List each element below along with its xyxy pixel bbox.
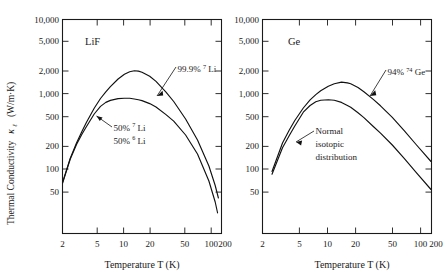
x-tick-label: 2 — [260, 239, 265, 249]
y-axis-title-units: (W/m·K) — [6, 82, 17, 117]
x-ticks-top-ge — [299, 20, 420, 26]
x-tick-label: 5 — [297, 239, 302, 249]
annotation-superscript: 74 — [406, 66, 412, 73]
annotation-label: 50% — [114, 123, 133, 133]
y-axis-title-symbol: κ — [6, 129, 16, 134]
y-tick-label: 5,000 — [239, 36, 260, 46]
x-axis-title-lif: Temperature T (K) — [104, 259, 179, 271]
annotation-label-tail: Li — [138, 123, 146, 133]
x-tick-label: 200 — [429, 239, 443, 249]
svg-text:50% 6 Li: 50% 6 Li — [114, 132, 147, 145]
thermal-conductivity-figure: Thermal Conductivity κ ℓ (W/m·K) — [0, 0, 447, 280]
curve-lif-enriched — [63, 71, 219, 198]
x-tick-label: 100 — [414, 239, 428, 249]
x-tick-label: 10 — [119, 239, 129, 249]
y-axis-title-main: Thermal Conductivity — [6, 141, 16, 225]
annotation-label-tail: Li — [138, 136, 146, 146]
curve-lif-natural — [63, 98, 218, 213]
annotation-label: Normal — [316, 126, 344, 136]
y-ticks-ge — [263, 20, 269, 193]
x-tick-label: 200 — [218, 239, 232, 249]
y-tick-label: 50 — [50, 187, 60, 197]
annotation-label: distribution — [316, 152, 358, 162]
annotation-superscript: 7 — [132, 121, 135, 128]
annotation-label: 50% — [114, 136, 133, 146]
x-tick-label: 100 — [204, 239, 218, 249]
svg-text:50% 7 Li: 50% 7 Li — [114, 119, 147, 132]
y-axis-title-symbol-subscript: ℓ — [11, 124, 18, 127]
y-tick-labels-ge: 10,000 5,000 2,000 1,000 500 200 100 50 — [234, 15, 259, 198]
y-tick-label: 100 — [246, 164, 260, 174]
annotation-label: 99.9% — [178, 64, 204, 74]
annotation-ge-enriched: 94% 74 Ge — [370, 64, 425, 96]
x-tick-label: 50 — [180, 239, 190, 249]
arrowhead-icon — [97, 116, 103, 121]
panel-lif: 10,000 5,000 2,000 1,000 500 200 100 50 — [34, 15, 232, 272]
plot-frame-ge — [263, 20, 432, 234]
svg-text:99.9% 7 L: 99.9% 7 Li — [178, 61, 217, 74]
x-ticks-top-lif — [97, 20, 211, 26]
x-ticks-bottom-lif — [63, 228, 222, 234]
y-axis-title: Thermal Conductivity κ ℓ (W/m·K) — [6, 82, 19, 225]
annotation-label-tail: Li — [208, 64, 216, 74]
y-tick-label: 500 — [46, 112, 60, 122]
curves-ge — [272, 82, 431, 189]
annotation-superscript: 7 — [203, 63, 206, 70]
svg-text:Thermal Conductivity: Thermal Conductivity κ ℓ (W/m·K) — [6, 82, 19, 225]
y-tick-label: 200 — [246, 141, 260, 151]
y-tick-label: 1,000 — [39, 89, 60, 99]
y-tick-label: 2,000 — [39, 66, 60, 76]
y-tick-label: 10,000 — [234, 15, 259, 25]
annotation-label: isotopic — [316, 139, 345, 149]
y-tick-label: 2,000 — [239, 66, 260, 76]
panel-title-lif: LiF — [85, 36, 100, 47]
y-tick-label: 50 — [250, 187, 260, 197]
x-tick-labels-ge: 2 5 10 20 50 100 200 — [260, 239, 443, 249]
y-tick-label: 1,000 — [239, 89, 260, 99]
annotation-label-tail: Ge — [415, 67, 426, 77]
y-tick-label: 100 — [46, 164, 60, 174]
curve-ge-natural — [272, 100, 431, 190]
x-tick-label: 20 — [146, 239, 156, 249]
x-tick-label: 10 — [323, 239, 333, 249]
svg-text:94% 74 Ge: 94% 74 Ge — [388, 64, 426, 77]
panel-title-ge: Ge — [288, 36, 301, 47]
x-tick-labels-lif: 2 5 10 20 50 100 200 — [60, 239, 232, 249]
annotation-superscript: 6 — [132, 134, 135, 141]
annotation-label: 94% — [388, 67, 407, 77]
x-ticks-bottom-ge — [263, 228, 432, 234]
x-tick-label: 20 — [351, 239, 361, 249]
y-tick-label: 10,000 — [34, 15, 59, 25]
annotation-lif-natural: 50% 7 Li 50% 6 Li — [97, 116, 147, 146]
annotation-ge-natural: Normal isotopic distribution — [296, 126, 358, 162]
y-ticks-right-ge — [426, 41, 432, 192]
x-axis-title-ge: Temperature T (K) — [314, 259, 389, 271]
panel-ge: 10,000 5,000 2,000 1,000 500 200 100 50 — [234, 15, 443, 272]
y-tick-labels-lif: 10,000 5,000 2,000 1,000 500 200 100 50 — [34, 15, 59, 198]
x-tick-label: 50 — [388, 239, 398, 249]
y-tick-label: 500 — [246, 112, 260, 122]
y-tick-label: 5,000 — [39, 36, 60, 46]
y-ticks-right-lif — [216, 41, 222, 192]
x-tick-label: 2 — [60, 239, 65, 249]
x-tick-label: 5 — [95, 239, 100, 249]
annotation-lif-enriched: 99.9% 7 Li — [157, 61, 217, 96]
y-tick-label: 200 — [46, 141, 60, 151]
figure-container: Thermal Conductivity κ ℓ (W/m·K) — [0, 0, 447, 280]
